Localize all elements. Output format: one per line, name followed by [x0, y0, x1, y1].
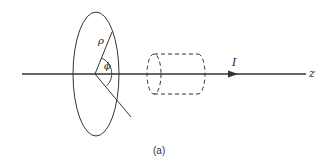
phi-label: ϕ: [104, 60, 111, 71]
figure-caption: (a): [153, 145, 165, 156]
current-arrow-icon: [228, 71, 238, 78]
z-axis-label: z: [308, 67, 315, 80]
radial-line-lower: [95, 74, 131, 117]
rho-label: ρ: [97, 35, 104, 46]
current-label: I: [231, 56, 237, 69]
cylindrical-coordinates-diagram: ρ ϕ I z (a): [0, 0, 327, 164]
